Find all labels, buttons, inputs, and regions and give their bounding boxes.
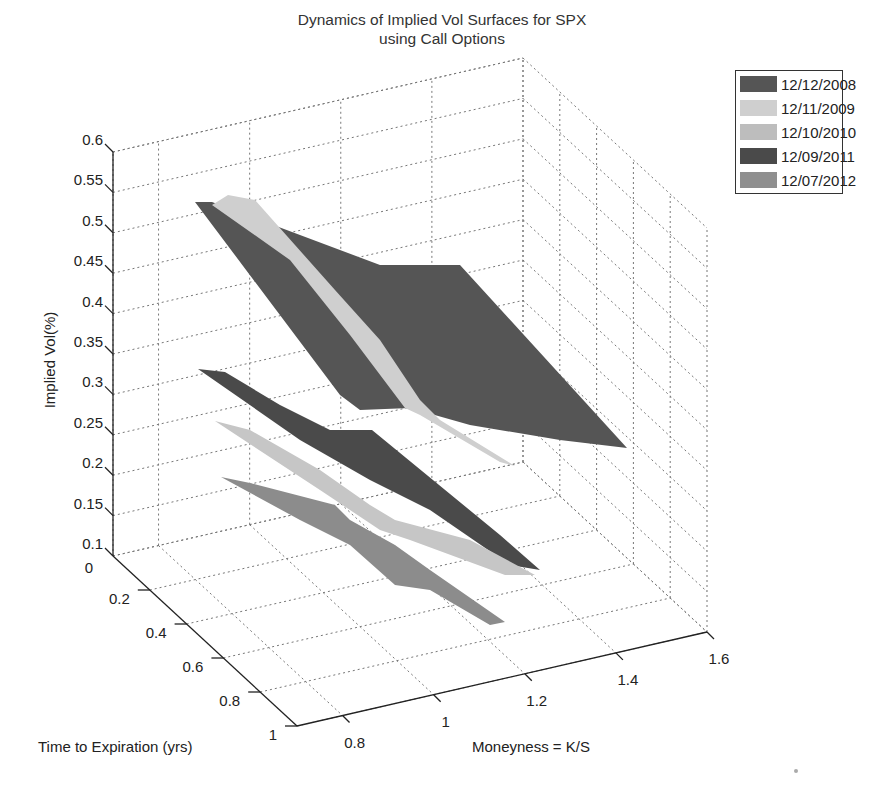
y-tick-label: 0.8 (219, 692, 240, 709)
legend-label: 12/09/2011 (781, 148, 855, 165)
legend-item: 12/11/2009 (740, 98, 855, 118)
z-tick-label: 0.45 (74, 252, 103, 269)
z-tick-label: 0.6 (82, 131, 103, 148)
legend-label: 12/07/2012 (781, 172, 856, 189)
z-tick-label: 0.3 (82, 373, 103, 390)
x-tick-label: 1.2 (526, 692, 547, 709)
y-tick-label: 0.6 (183, 658, 204, 675)
x-tick-label: 0.8 (344, 734, 365, 751)
tick-labels: 0.10.150.20.250.30.350.40.450.50.550.600… (74, 131, 730, 751)
x-tick-label: 1 (441, 713, 449, 730)
legend-item: 12/07/2012 (740, 170, 856, 190)
z-tick-label: 0.1 (82, 535, 103, 552)
legend-label: 12/11/2009 (781, 100, 855, 117)
legend-item: 12/09/2011 (740, 146, 855, 166)
stray-dot (794, 769, 798, 773)
z-tick-label: 0.35 (74, 333, 103, 350)
y-tick-label: 0.4 (146, 624, 167, 641)
legend-label: 12/10/2010 (781, 124, 856, 141)
vol-surfaces (195, 195, 627, 625)
legend-item: 12/12/2008 (740, 74, 856, 94)
legend-swatch (740, 76, 777, 92)
z-tick-label: 0.5 (82, 212, 103, 229)
legend-label: 12/12/2008 (781, 76, 856, 93)
z-tick-label: 0.2 (82, 454, 103, 471)
z-tick-label: 0.15 (74, 495, 103, 512)
legend-item: 12/10/2010 (740, 122, 856, 142)
y-tick-label: 0 (85, 559, 93, 576)
legend-swatch (740, 124, 777, 140)
z-axis-label: Implied Vol(%) (41, 312, 58, 409)
legend-swatch (740, 172, 777, 188)
legend: 12/12/2008 12/11/2009 12/10/2010 12/09/2… (735, 70, 843, 194)
y-axis-label: Time to Expiration (yrs) (38, 738, 192, 755)
z-tick-label: 0.55 (74, 171, 103, 188)
x-tick-label: 1.6 (709, 650, 730, 667)
y-tick-label: 0.2 (109, 590, 130, 607)
x-tick-label: 1.4 (617, 671, 638, 688)
legend-swatch (740, 100, 777, 116)
legend-swatch (740, 148, 777, 164)
y-tick-label: 1 (269, 726, 277, 743)
z-tick-label: 0.25 (74, 414, 103, 431)
z-tick-label: 0.4 (82, 293, 103, 310)
x-axis-label: Moneyness = K/S (472, 738, 590, 755)
